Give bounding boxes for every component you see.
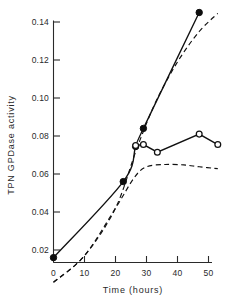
y-tick-label-004: 0.04: [32, 207, 49, 217]
plot-area: [50, 9, 220, 282]
y-tick-label-008: 0.08: [32, 131, 49, 141]
data-point-filled-4: [196, 9, 202, 15]
data-point-open-2: [154, 149, 160, 155]
x-tick-label-0: 0: [51, 268, 56, 278]
x-tick-label-10: 10: [80, 268, 90, 278]
open-circle-curve: [136, 134, 218, 152]
x-axis-title: Time (hours): [103, 285, 163, 295]
x-tick-label-40: 40: [173, 268, 183, 278]
y-tick-label-014: 0.14: [32, 17, 49, 27]
data-point-open-0: [133, 143, 139, 149]
filled-circle-curve: [54, 13, 200, 258]
data-point-filled-0: [50, 254, 56, 260]
x-tick-label-50: 50: [204, 268, 214, 278]
y-axis-ticks: [54, 22, 61, 250]
x-tick-label-20: 20: [111, 268, 121, 278]
axis-lines: [54, 21, 213, 263]
x-axis-tick-labels: 0 10 20 30 40 50: [51, 268, 213, 278]
chart-figure: 0.14 0.12 0.10 0.08 0.06 0.04 0.02 0 10 …: [0, 0, 236, 302]
y-axis-title: TPN GPDase activity: [6, 95, 16, 195]
filled-circle-markers: [50, 9, 202, 261]
data-point-open-1: [141, 142, 147, 148]
y-axis-tick-labels: 0.14 0.12 0.10 0.08 0.06 0.04 0.02: [32, 17, 49, 255]
data-point-open-3: [196, 131, 202, 137]
data-point-filled-1: [120, 178, 126, 184]
data-point-filled-3: [140, 125, 146, 131]
x-axis-ticks: [54, 256, 209, 263]
y-tick-label-006: 0.06: [32, 169, 49, 179]
y-tick-label-002: 0.02: [32, 245, 49, 255]
x-tick-label-30: 30: [142, 268, 152, 278]
data-point-open-4: [215, 142, 221, 148]
y-tick-label-010: 0.10: [32, 93, 49, 103]
y-tick-label-012: 0.12: [32, 55, 49, 65]
lower-dashed-curve: [54, 164, 218, 282]
